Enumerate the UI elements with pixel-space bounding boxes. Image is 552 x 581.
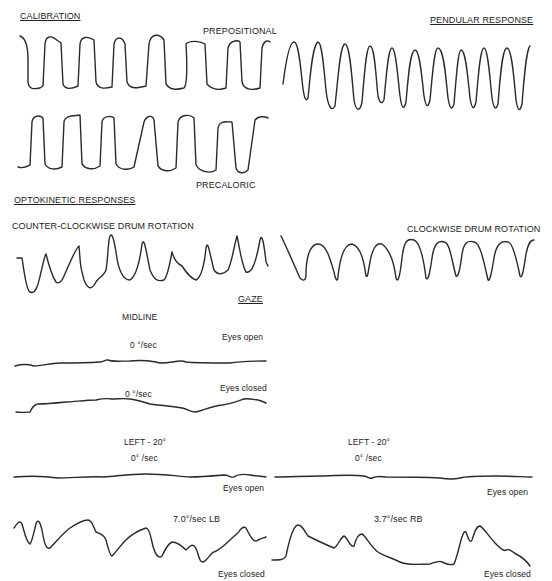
cw-drum-trace [281, 236, 534, 280]
precaloric-trace [18, 115, 268, 173]
left-open-trace-left [14, 474, 266, 478]
midline-open-trace [15, 360, 266, 366]
left-open-trace-right [275, 475, 532, 479]
ccw-drum-trace [17, 235, 268, 293]
prepositional-trace [20, 35, 270, 89]
midline-closed-trace [16, 399, 266, 413]
pendular-trace [283, 42, 530, 110]
eye-movement-traces [0, 0, 552, 581]
left-closed-trace-7-0 [14, 520, 266, 562]
right-closed-trace-3-7 [272, 525, 530, 566]
